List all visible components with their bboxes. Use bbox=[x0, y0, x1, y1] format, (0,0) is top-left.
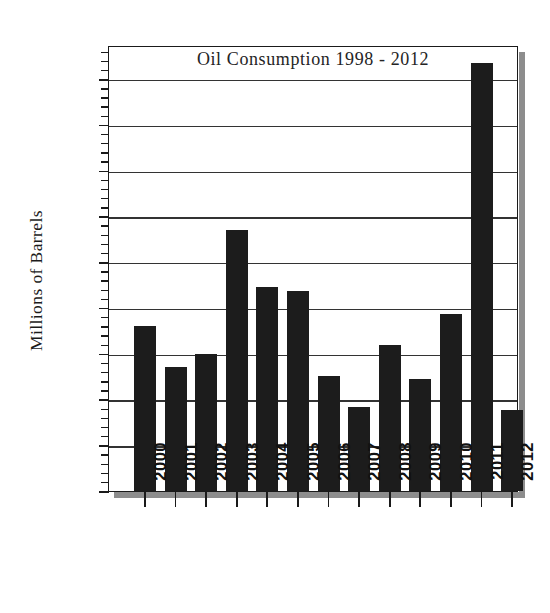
x-axis-tick bbox=[205, 492, 207, 507]
y-axis-minor-tick bbox=[101, 280, 109, 281]
y-axis-major-tick bbox=[99, 262, 109, 264]
x-axis-tick bbox=[328, 492, 330, 507]
y-axis-tick-label: 15 bbox=[0, 345, 1, 361]
y-axis-minor-tick bbox=[101, 61, 109, 62]
y-axis-title: Millions of Barrels bbox=[26, 151, 47, 411]
x-axis-tick-label: 2004 bbox=[273, 442, 292, 512]
x-axis-tick-label: 2011 bbox=[488, 442, 507, 512]
x-axis-tick-label: 2001 bbox=[182, 442, 201, 512]
y-axis-minor-tick bbox=[101, 271, 109, 272]
x-axis-tick-label: 2010 bbox=[457, 442, 476, 512]
gridline bbox=[109, 263, 517, 264]
gridline bbox=[109, 217, 517, 218]
y-axis-minor-tick bbox=[101, 253, 109, 254]
y-axis-minor-tick bbox=[101, 409, 109, 410]
y-axis-major-tick bbox=[99, 445, 109, 447]
y-axis-minor-tick bbox=[101, 454, 109, 455]
y-axis-minor-tick bbox=[101, 207, 109, 208]
y-axis-major-tick bbox=[99, 491, 109, 493]
y-axis-minor-tick bbox=[101, 372, 109, 373]
chart-title: Oil Consumption 1998 - 2012 bbox=[118, 49, 508, 70]
x-axis-tick-label: 2005 bbox=[304, 442, 323, 512]
x-axis-tick-label: 2002 bbox=[212, 442, 231, 512]
y-axis-major-tick bbox=[99, 216, 109, 218]
gridline bbox=[109, 80, 517, 81]
y-axis-minor-tick bbox=[101, 134, 109, 135]
y-axis-minor-tick bbox=[101, 290, 109, 291]
x-axis-tick bbox=[144, 492, 146, 507]
y-axis-minor-tick bbox=[101, 473, 109, 474]
bar bbox=[471, 63, 493, 491]
y-axis-minor-tick bbox=[101, 180, 109, 181]
y-axis-minor-tick bbox=[101, 335, 109, 336]
y-axis-major-tick bbox=[99, 399, 109, 401]
x-axis-tick bbox=[297, 492, 299, 507]
y-axis-tick-label: 45 bbox=[0, 70, 1, 86]
chart-figure: Millions of Barrels Oil Consumption 1998… bbox=[0, 0, 550, 613]
y-axis-minor-tick bbox=[101, 418, 109, 419]
x-axis-tick-label: 2008 bbox=[396, 442, 415, 512]
y-axis-tick-label: 20 bbox=[0, 299, 1, 315]
y-axis-minor-tick bbox=[101, 427, 109, 428]
y-axis-minor-tick bbox=[101, 390, 109, 391]
x-axis-tick-label: 2007 bbox=[365, 442, 384, 512]
y-axis-minor-tick bbox=[101, 225, 109, 226]
gridline bbox=[109, 126, 517, 127]
y-axis-minor-tick bbox=[101, 326, 109, 327]
y-axis-minor-tick bbox=[101, 317, 109, 318]
plot-area bbox=[108, 46, 518, 492]
y-axis-minor-tick bbox=[101, 381, 109, 382]
gridline bbox=[109, 309, 517, 310]
y-axis-minor-tick bbox=[101, 97, 109, 98]
y-axis-minor-tick bbox=[101, 436, 109, 437]
y-axis-minor-tick bbox=[101, 464, 109, 465]
y-axis-minor-tick bbox=[101, 198, 109, 199]
x-axis-tick bbox=[266, 492, 268, 507]
y-axis-tick-label: 35 bbox=[0, 162, 1, 178]
x-axis-tick bbox=[236, 492, 238, 507]
y-axis-major-tick bbox=[99, 125, 109, 127]
y-axis-major-tick bbox=[99, 79, 109, 81]
x-axis-tick-label: 2012 bbox=[518, 442, 537, 512]
y-axis-minor-tick bbox=[101, 116, 109, 117]
x-axis-tick-label: 2006 bbox=[335, 442, 354, 512]
y-axis-major-tick bbox=[99, 354, 109, 356]
x-axis-tick bbox=[481, 492, 483, 507]
y-axis-minor-tick bbox=[101, 88, 109, 89]
x-axis-tick-label: 2009 bbox=[426, 442, 445, 512]
y-axis-tick-label: 30 bbox=[0, 207, 1, 223]
y-axis-tick-label: 05 bbox=[0, 436, 1, 452]
y-axis-minor-tick bbox=[101, 363, 109, 364]
y-axis-tick-label: 25 bbox=[0, 253, 1, 269]
x-axis-tick-label: 2000 bbox=[151, 442, 170, 512]
y-axis-minor-tick bbox=[101, 106, 109, 107]
y-axis-minor-tick bbox=[101, 161, 109, 162]
y-axis-minor-tick bbox=[101, 345, 109, 346]
y-axis-minor-tick bbox=[101, 52, 109, 53]
x-axis-tick bbox=[511, 492, 513, 507]
y-axis-minor-tick bbox=[101, 299, 109, 300]
y-axis-major-tick bbox=[99, 171, 109, 173]
x-axis-tick bbox=[419, 492, 421, 507]
x-axis-tick bbox=[450, 492, 452, 507]
x-axis-tick bbox=[358, 492, 360, 507]
y-axis-minor-tick bbox=[101, 235, 109, 236]
y-axis-major-tick bbox=[99, 308, 109, 310]
y-axis-tick-label: 10 bbox=[0, 390, 1, 406]
y-axis-minor-tick bbox=[101, 244, 109, 245]
x-axis-tick bbox=[175, 492, 177, 507]
x-axis-tick bbox=[389, 492, 391, 507]
y-axis-minor-tick bbox=[101, 152, 109, 153]
y-axis-minor-tick bbox=[101, 143, 109, 144]
x-axis-tick-label: 2003 bbox=[243, 442, 262, 512]
y-axis-minor-tick bbox=[101, 482, 109, 483]
y-axis-tick-label: 00 bbox=[0, 482, 1, 498]
gridline bbox=[109, 172, 517, 173]
y-axis-minor-tick bbox=[101, 70, 109, 71]
y-axis-minor-tick bbox=[101, 189, 109, 190]
y-axis-tick-label: 40 bbox=[0, 116, 1, 132]
